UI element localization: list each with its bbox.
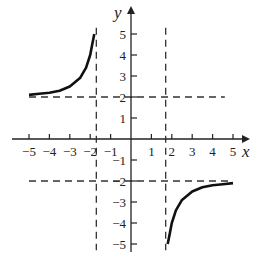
x-tick-label: 2 xyxy=(169,144,176,159)
y-tick-label: 2 xyxy=(120,90,127,105)
x-tick-label: −5 xyxy=(22,144,36,159)
x-tick-label: 1 xyxy=(148,144,155,159)
y-tick-label: −4 xyxy=(112,216,126,231)
y-tick-label: −1 xyxy=(112,153,126,168)
x-tick-label: −3 xyxy=(63,144,77,159)
y-tick-label: −5 xyxy=(112,237,126,252)
y-tick-label: −2 xyxy=(112,174,126,189)
function-branch xyxy=(29,34,94,95)
function-branch xyxy=(168,183,233,244)
axes xyxy=(12,8,248,252)
y-tick-label: 4 xyxy=(120,48,127,63)
y-tick-label: 1 xyxy=(120,111,127,126)
x-tick-label: −2 xyxy=(83,144,97,159)
y-tick-label: −3 xyxy=(112,195,126,210)
rational-function-graph: −5−4−3−2−11234554321−1−2−3−4−5 x y xyxy=(0,0,257,257)
x-tick-label: 5 xyxy=(230,144,237,159)
x-axis-label: x xyxy=(241,142,250,161)
y-tick-label: 3 xyxy=(120,69,127,84)
x-tick-label: −4 xyxy=(42,144,56,159)
y-axis-label: y xyxy=(112,3,122,22)
y-tick-label: 5 xyxy=(120,27,127,42)
x-tick-label: 3 xyxy=(189,144,196,159)
x-tick-label: 4 xyxy=(209,144,216,159)
